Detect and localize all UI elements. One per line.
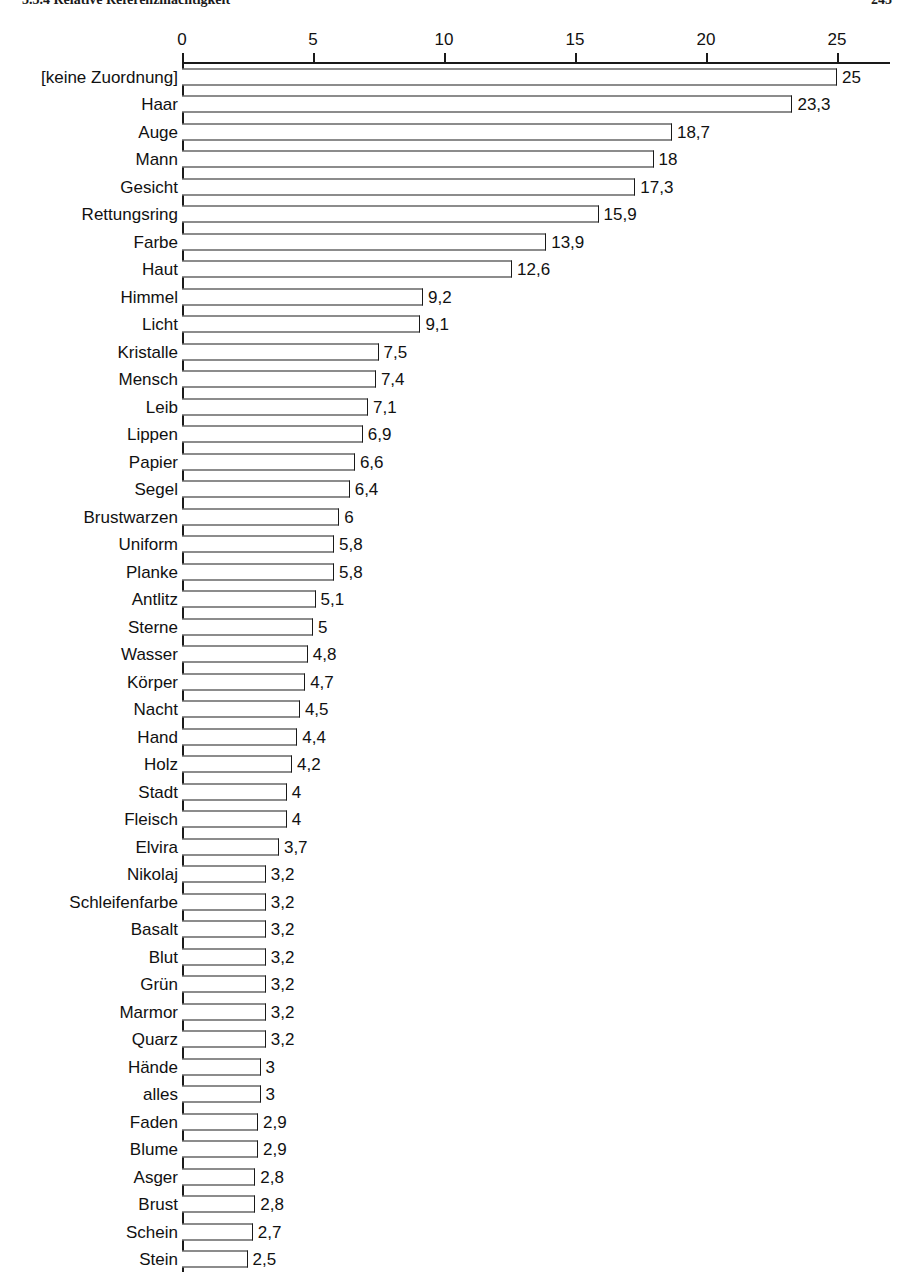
bar-value-label: 6,6	[360, 453, 384, 470]
bar-container: 3	[182, 1058, 275, 1075]
bar-container: 3,2	[182, 976, 294, 993]
bar	[182, 783, 287, 800]
bar	[182, 123, 672, 140]
category-label: Blut	[149, 948, 178, 965]
category-label: Schleifenfarbe	[69, 893, 178, 910]
bar-row: Blut3,2	[0, 943, 916, 971]
bar-value-label: 4,5	[305, 701, 329, 718]
bar-row: Hand4,4	[0, 723, 916, 751]
bar-value-label: 2,7	[258, 1223, 282, 1240]
bar-value-label: 5,8	[339, 563, 363, 580]
bar	[182, 701, 300, 718]
bar-value-label: 2,9	[263, 1141, 287, 1158]
bar-value-label: 25	[842, 68, 861, 85]
bar-row: Haar23,3	[0, 91, 916, 119]
category-label: [keine Zuordnung]	[41, 68, 178, 85]
bar-row: Planke5,8	[0, 558, 916, 586]
bar-container: 7,5	[182, 343, 407, 360]
bar-value-label: 4,4	[302, 728, 326, 745]
bar-row: Nikolaj3,2	[0, 861, 916, 889]
bar-container: 5,8	[182, 536, 363, 553]
category-label: Gesicht	[120, 178, 178, 195]
bar-row: Mensch7,4	[0, 366, 916, 394]
bar	[182, 1058, 261, 1075]
bar-value-label: 18,7	[677, 123, 710, 140]
bar-value-label: 15,9	[604, 206, 637, 223]
bar-container: 3	[182, 1086, 275, 1103]
bar-container: 5	[182, 618, 327, 635]
bar-value-label: 9,1	[425, 316, 449, 333]
bar	[182, 1223, 253, 1240]
bar-row: Wasser4,8	[0, 641, 916, 669]
bar-row: Brustwarzen6	[0, 503, 916, 531]
bar	[182, 756, 292, 773]
bar-value-label: 5,1	[321, 591, 345, 608]
bar-container: 18	[182, 151, 678, 168]
bar-row: Gesicht17,3	[0, 173, 916, 201]
category-label: Elvira	[135, 838, 178, 855]
category-label: Quarz	[132, 1031, 178, 1048]
category-label: Brust	[138, 1196, 178, 1213]
bar-row: Lippen6,9	[0, 421, 916, 449]
bar-row: Kristalle7,5	[0, 338, 916, 366]
bar-container: 3,2	[182, 1003, 294, 1020]
bar-row: [keine Zuordnung]25	[0, 63, 916, 91]
bar-value-label: 3,2	[271, 1003, 295, 1020]
bar	[182, 178, 635, 195]
bar-container: 25	[182, 68, 861, 85]
bar-container: 3,2	[182, 1031, 294, 1048]
bar-value-label: 4	[292, 811, 301, 828]
x-tick-mark	[313, 53, 315, 62]
bar-value-label: 23,3	[797, 96, 830, 113]
category-label: Planke	[126, 563, 178, 580]
bar-value-label: 3	[266, 1058, 275, 1075]
bar-row: Antlitz5,1	[0, 586, 916, 614]
bar-row: Hände3	[0, 1053, 916, 1081]
bar	[182, 453, 355, 470]
bar-rows: [keine Zuordnung]25Haar23,3Auge18,7Mann1…	[0, 63, 916, 1273]
bar	[182, 288, 423, 305]
bar-value-label: 3,2	[271, 1031, 295, 1048]
bar-row: Himmel9,2	[0, 283, 916, 311]
bar-value-label: 6	[344, 508, 353, 525]
category-label: Papier	[129, 453, 178, 470]
bar	[182, 1168, 255, 1185]
bar-row: Haut12,6	[0, 256, 916, 284]
bar-value-label: 2,5	[253, 1251, 277, 1268]
category-label: Brustwarzen	[84, 508, 178, 525]
bar-container: 2,7	[182, 1223, 281, 1240]
bar-row: Schleifenfarbe3,2	[0, 888, 916, 916]
bar	[182, 921, 266, 938]
bar-container: 3,2	[182, 948, 294, 965]
category-label: Körper	[127, 673, 178, 690]
bar	[182, 1141, 258, 1158]
bar-value-label: 2,8	[260, 1168, 284, 1185]
bar-row: Grün3,2	[0, 971, 916, 999]
category-label: Stadt	[138, 783, 178, 800]
bar-container: 6,9	[182, 426, 391, 443]
bar	[182, 563, 334, 580]
category-label: Schein	[126, 1223, 178, 1240]
bar-row: Stadt4	[0, 778, 916, 806]
bar-row: Stein2,5	[0, 1246, 916, 1274]
x-tick-mark	[837, 53, 839, 62]
bar-container: 2,8	[182, 1196, 284, 1213]
bar-value-label: 4,2	[297, 756, 321, 773]
bar-row: Nacht4,5	[0, 696, 916, 724]
category-label: Faden	[130, 1113, 178, 1130]
bar-value-label: 6,4	[355, 481, 379, 498]
bar-container: 3,2	[182, 893, 294, 910]
category-label: Farbe	[134, 233, 178, 250]
bar-value-label: 3,2	[271, 866, 295, 883]
bar-container: 3,7	[182, 838, 308, 855]
category-label: Holz	[144, 756, 178, 773]
bar-value-label: 3,7	[284, 838, 308, 855]
bar-container: 7,1	[182, 398, 397, 415]
category-label: Hand	[137, 728, 178, 745]
bar-row: Licht9,1	[0, 311, 916, 339]
bar-row: Fleisch4	[0, 806, 916, 834]
bar-value-label: 5	[318, 618, 327, 635]
category-label: Segel	[135, 481, 178, 498]
bar-value-label: 13,9	[551, 233, 584, 250]
bar-container: 2,9	[182, 1141, 287, 1158]
